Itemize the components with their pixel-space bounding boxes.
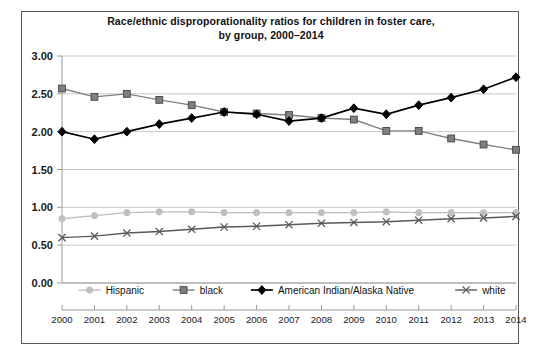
data-point bbox=[188, 102, 195, 109]
y-axis-tick-label: 0.50 bbox=[32, 239, 53, 251]
data-series-group bbox=[58, 73, 520, 241]
x-axis-tick-label: 2011 bbox=[408, 314, 429, 325]
x-axis-tick-label: 2010 bbox=[376, 314, 397, 325]
x-axis-tick-label: 2012 bbox=[440, 314, 461, 325]
series-line bbox=[62, 216, 516, 237]
data-point bbox=[91, 213, 97, 219]
y-axis-tick-label: 3.00 bbox=[32, 50, 53, 62]
data-point bbox=[90, 135, 98, 144]
legend-marker bbox=[258, 286, 266, 295]
x-axis-tick-label: 2008 bbox=[311, 314, 332, 325]
y-axis-tick-labels: 0.000.501.001.502.002.503.00 bbox=[32, 50, 53, 289]
data-point bbox=[156, 209, 162, 215]
data-point bbox=[480, 210, 486, 216]
data-point bbox=[351, 210, 357, 216]
y-axis-tick-label: 2.00 bbox=[32, 126, 53, 138]
y-axis-tick-label: 2.50 bbox=[32, 88, 53, 100]
data-point bbox=[350, 116, 357, 123]
y-axis-tick-label: 0.00 bbox=[32, 277, 53, 289]
x-axis-tick-label: 2003 bbox=[149, 314, 170, 325]
x-axis-tick-label: 2002 bbox=[116, 314, 137, 325]
data-point bbox=[253, 210, 259, 216]
legend-label: Hispanic bbox=[106, 285, 144, 296]
data-point bbox=[480, 85, 488, 94]
data-point bbox=[59, 216, 65, 222]
y-axis-tick-label: 1.50 bbox=[32, 164, 53, 176]
data-point bbox=[286, 210, 292, 216]
data-point bbox=[189, 209, 195, 215]
legend-item-hispanic[interactable]: Hispanic bbox=[79, 285, 144, 296]
data-point bbox=[448, 210, 454, 216]
data-point bbox=[512, 73, 520, 82]
x-axis-tick-label: 2007 bbox=[278, 314, 299, 325]
legend-marker bbox=[87, 287, 93, 293]
x-axis-tick-label: 2000 bbox=[51, 314, 72, 325]
data-point bbox=[383, 128, 390, 135]
data-point bbox=[513, 146, 520, 153]
data-point bbox=[124, 210, 130, 216]
x-axis-tick-label: 2001 bbox=[84, 314, 105, 325]
x-axis-tick-label: 2013 bbox=[473, 314, 494, 325]
legend-item-american-indian-alaska-native[interactable]: American Indian/Alaska Native bbox=[251, 285, 415, 296]
legend-label: American Indian/Alaska Native bbox=[278, 285, 415, 296]
series-american-indian-alaska-native bbox=[58, 73, 520, 144]
data-point bbox=[480, 141, 487, 148]
legend-marker bbox=[180, 287, 187, 294]
data-point bbox=[58, 127, 66, 136]
legend-label: white bbox=[481, 285, 506, 296]
data-point bbox=[188, 114, 196, 123]
data-point bbox=[123, 127, 131, 136]
x-axis-tick-labels: 2000200120022003200420052006200720082009… bbox=[51, 314, 527, 325]
y-axis-tick-label: 1.00 bbox=[32, 201, 53, 213]
legend-label: black bbox=[200, 285, 224, 296]
x-axis-tick-label: 2009 bbox=[343, 314, 364, 325]
data-point bbox=[448, 135, 455, 142]
data-point bbox=[350, 104, 358, 113]
legend-item-black[interactable]: black bbox=[173, 285, 224, 296]
data-point bbox=[123, 90, 130, 97]
x-axis-tick-label: 2005 bbox=[213, 314, 234, 325]
data-point bbox=[155, 120, 163, 129]
data-point bbox=[91, 93, 98, 100]
series-line bbox=[62, 77, 516, 139]
x-axis-tick-label: 2004 bbox=[181, 314, 203, 325]
data-point bbox=[416, 210, 422, 216]
data-point bbox=[221, 210, 227, 216]
x-axis-tick-label: 2006 bbox=[246, 314, 267, 325]
series-white bbox=[58, 213, 519, 241]
chart-plot-area: 0.000.501.001.502.002.503.00 20002001200… bbox=[0, 0, 542, 356]
data-point bbox=[318, 210, 324, 216]
data-point bbox=[382, 110, 390, 119]
legend-item-white[interactable]: white bbox=[455, 285, 506, 296]
data-point bbox=[447, 93, 455, 102]
data-point bbox=[59, 85, 66, 92]
data-point bbox=[383, 209, 389, 215]
x-axis-tick-label: 2014 bbox=[505, 314, 527, 325]
line-chart-svg: 0.000.501.001.502.002.503.00 20002001200… bbox=[0, 0, 542, 356]
data-point bbox=[415, 101, 423, 110]
data-point bbox=[156, 96, 163, 103]
data-point bbox=[415, 128, 422, 135]
chart-legend: HispanicblackAmerican Indian/Alaska Nati… bbox=[79, 285, 506, 296]
